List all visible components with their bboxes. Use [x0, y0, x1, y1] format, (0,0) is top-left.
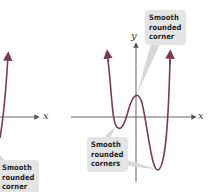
- top-callout: Smooth rounded corner: [145, 10, 186, 45]
- top-callout-line1: Smooth: [149, 13, 182, 23]
- right-y-axis-label: y: [131, 30, 137, 41]
- left-callout: Smooth rounded corner: [0, 160, 39, 192]
- bottom-callout-line3: corners: [91, 159, 124, 169]
- left-callout-line3: corner: [2, 182, 35, 192]
- bottom-callout-line2: rounded: [91, 150, 124, 160]
- bottom-callout: Smooth rounded corners: [87, 137, 128, 172]
- top-callout-line3: corner: [149, 32, 182, 42]
- bottom-callout-line1: Smooth: [91, 140, 124, 150]
- top-callout-leader: [137, 40, 160, 94]
- left-callout-line2: rounded: [2, 173, 35, 183]
- left-curve: [0, 56, 8, 138]
- top-callout-line2: rounded: [149, 23, 182, 33]
- left-x-axis-label: x: [43, 110, 49, 121]
- right-x-axis-label: x: [198, 110, 204, 121]
- left-callout-line1: Smooth: [2, 163, 35, 173]
